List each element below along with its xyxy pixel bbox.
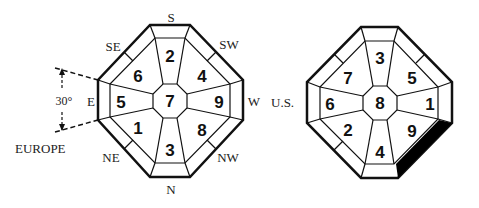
europe-cell-bottom-right: 8 [197,121,206,140]
us-cell-right: 1 [425,95,434,114]
direction-e: E [87,94,95,109]
us-cell-bottom-right: 9 [407,122,416,141]
europe-cell-right: 9 [214,93,223,112]
direction-w: W [248,94,261,109]
us-octagon: 8 3 5 1 9 4 2 6 7 [307,27,452,178]
direction-ne: NE [102,150,119,165]
direction-sw: SW [219,37,239,52]
us-label: U.S. [271,95,294,110]
europe-label: EUROPE [15,141,66,156]
us-cell-top-right: 5 [407,69,416,88]
us-cell-top: 3 [375,49,384,68]
europe-cell-top-right: 4 [197,67,207,86]
europe-cell-bottom-left: 1 [133,119,142,138]
direction-n: N [166,182,176,197]
us-cell-top-left: 7 [343,69,352,88]
arrow-up-icon [59,68,65,75]
us-cell-bottom-left: 2 [343,121,352,140]
europe-cell-center: 7 [165,92,174,111]
europe-cell-left: 5 [116,93,125,112]
us-cell-left: 6 [325,95,334,114]
us-cell-bottom: 4 [375,143,385,162]
angle-label: 30° [56,94,73,108]
europe-cell-top: 2 [165,47,174,66]
direction-s: S [167,10,174,25]
direction-se: SE [105,39,120,54]
europe-cell-top-left: 6 [133,67,142,86]
us-cell-center: 8 [375,94,384,113]
direction-nw: NW [217,150,239,165]
europe-cell-bottom: 3 [165,141,174,160]
europe-octagon: 7 2 4 9 8 3 1 5 6 S SW W NW N NE E SE 30… [15,10,261,197]
bagua-diagrams: 7 2 4 9 8 3 1 5 6 S SW W NW N NE E SE 30… [0,0,479,208]
